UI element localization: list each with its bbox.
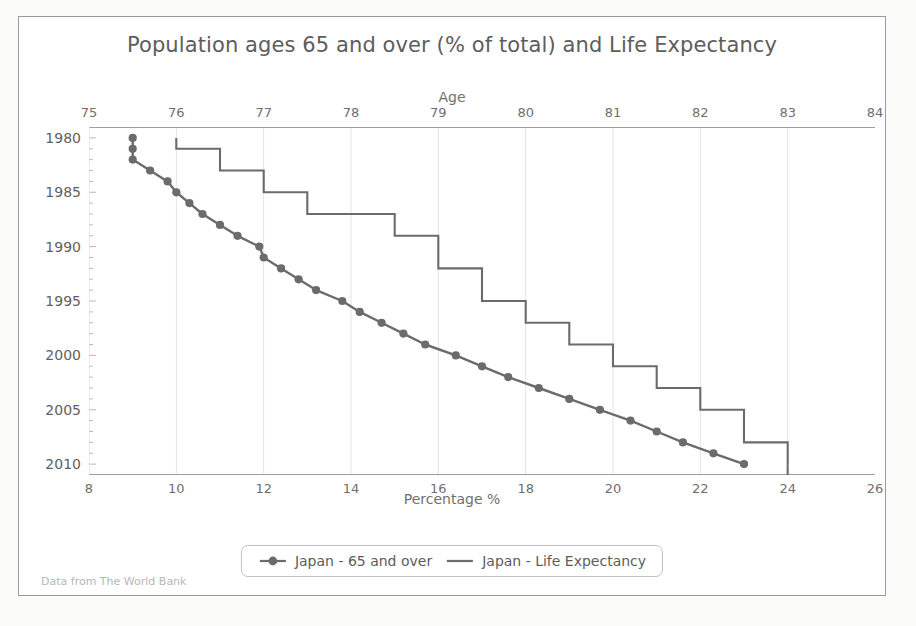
chart-card: Population ages 65 and over (% of total)… — [18, 16, 886, 596]
top-tick-label: 82 — [692, 105, 709, 120]
series-marker-65-and-over — [185, 199, 193, 207]
y-tick-label: 1990 — [45, 239, 81, 255]
data-source-note: Data from The World Bank — [41, 575, 186, 588]
legend-line-marker-icon — [258, 554, 288, 568]
legend-item[interactable]: Japan - Life Expectancy — [445, 553, 646, 569]
top-tick-label: 84 — [867, 105, 884, 120]
series-marker-65-and-over — [216, 221, 224, 229]
top-tick-label: 77 — [255, 105, 272, 120]
top-axis-title: Age — [19, 89, 885, 105]
series-marker-65-and-over — [338, 297, 346, 305]
bottom-axis-title: Percentage % — [19, 491, 885, 507]
series-marker-65-and-over — [478, 362, 486, 370]
top-tick-label: 75 — [81, 105, 98, 120]
legend-label: Japan - Life Expectancy — [482, 553, 646, 569]
series-marker-65-and-over — [452, 351, 460, 359]
plot-svg — [89, 127, 875, 475]
series-marker-65-and-over — [255, 243, 263, 251]
series-marker-65-and-over — [504, 373, 512, 381]
series-marker-65-and-over — [378, 319, 386, 327]
chart-title: Population ages 65 and over (% of total)… — [19, 33, 885, 57]
top-tick-label: 78 — [343, 105, 360, 120]
chart-legend: Japan - 65 and overJapan - Life Expectan… — [241, 545, 663, 577]
series-marker-65-and-over — [277, 264, 285, 272]
series-line-life-expectancy — [176, 138, 787, 464]
y-tick-label: 1980 — [45, 130, 81, 146]
series-marker-65-and-over — [146, 166, 154, 174]
y-tick-label: 2005 — [45, 402, 81, 418]
legend-item[interactable]: Japan - 65 and over — [258, 553, 432, 569]
legend-line-icon — [445, 554, 475, 568]
series-marker-65-and-over — [356, 308, 364, 316]
series-marker-65-and-over — [709, 449, 717, 457]
top-tick-label: 79 — [430, 105, 447, 120]
series-marker-65-and-over — [565, 395, 573, 403]
top-tick-label: 83 — [779, 105, 796, 120]
series-marker-65-and-over — [233, 232, 241, 240]
y-tick-label: 1985 — [45, 184, 81, 200]
plot-area — [89, 127, 875, 475]
series-marker-65-and-over — [198, 210, 206, 218]
top-tick-label: 81 — [605, 105, 622, 120]
y-tick-label: 1995 — [45, 293, 81, 309]
series-marker-65-and-over — [653, 427, 661, 435]
series-marker-65-and-over — [129, 156, 137, 164]
series-marker-65-and-over — [535, 384, 543, 392]
series-marker-65-and-over — [596, 406, 604, 414]
series-marker-65-and-over — [679, 438, 687, 446]
series-marker-65-and-over — [172, 188, 180, 196]
top-tick-label: 80 — [517, 105, 534, 120]
series-marker-65-and-over — [626, 417, 634, 425]
series-marker-65-and-over — [740, 460, 748, 468]
top-axis-ticks: 75767778798081828384 — [89, 105, 875, 123]
series-marker-65-and-over — [129, 134, 137, 142]
y-tick-label: 2010 — [45, 456, 81, 472]
y-tick-label: 2000 — [45, 347, 81, 363]
series-marker-65-and-over — [312, 286, 320, 294]
series-marker-65-and-over — [295, 275, 303, 283]
series-marker-65-and-over — [399, 330, 407, 338]
series-marker-65-and-over — [421, 340, 429, 348]
legend-label: Japan - 65 and over — [295, 553, 432, 569]
y-axis-labels: 1980198519901995200020052010 — [19, 127, 81, 475]
series-marker-65-and-over — [164, 177, 172, 185]
series-marker-65-and-over — [129, 145, 137, 153]
series-marker-65-and-over — [260, 253, 268, 261]
top-tick-label: 76 — [168, 105, 185, 120]
